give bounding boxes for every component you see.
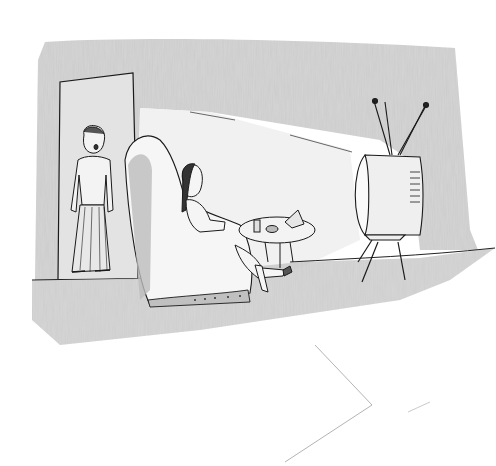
pencil-sketch-scene	[0, 0, 496, 466]
